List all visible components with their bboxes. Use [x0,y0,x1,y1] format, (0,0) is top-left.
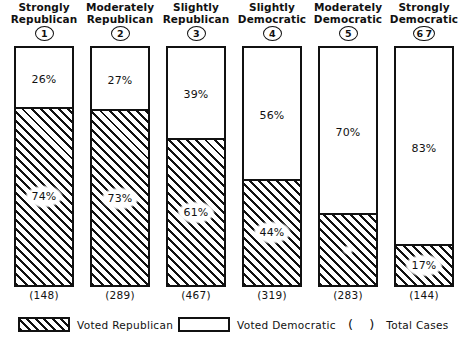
segment-democratic: 39% [168,48,224,142]
bar-column-2: 27% 73% [90,46,150,287]
legend-label-total-cases: Total Cases [386,319,448,331]
bar-column-6: 83% 17% [394,46,454,287]
legend-item-democratic: Voted Democratic [178,317,336,332]
segment-republican: 73% [92,109,148,285]
category-label: Strongly Republican [2,2,86,25]
legend-label-democratic: Voted Democratic [237,319,336,331]
segment-label-democratic: 27% [107,74,132,87]
segment-label-democratic: 70% [335,126,360,139]
segment-republican: 61% [168,138,224,285]
bar-column-3: 39% 61% [166,46,226,287]
legend-swatch-republican-icon [18,317,70,332]
bar-column-1: 26% 74% [14,46,74,287]
bar-total-cases: (467) [158,289,234,301]
category-label: Slightly Republican [154,2,238,25]
category-label: Strongly Democratic [382,2,466,25]
category-badge-number: 6 7 [413,26,434,41]
category-badge-number: 2 [111,26,130,41]
segment-republican: 74% [16,107,72,285]
legend-label-republican: Voted Republican [77,319,173,331]
legend-swatch-democratic-icon [178,317,230,332]
category-badge: 4 [234,26,310,41]
segment-republican [320,213,376,285]
segment-democratic: 83% [396,48,452,248]
category-badge-number: 1 [35,26,54,41]
legend-item-total-cases: ( ) Total Cases [348,317,449,332]
category-badge-number: 5 [339,26,358,41]
segment-democratic: 26% [16,48,72,111]
category-label: Moderately Democratic [306,2,390,25]
bar-total-cases: (144) [386,289,462,301]
segment-label-republican: 74% [28,188,59,205]
category-label: Moderately Republican [78,2,162,25]
segment-label-democratic: 56% [259,109,284,122]
segment-label-republican: 17% [408,257,439,274]
bar-total-cases: (319) [234,289,310,301]
legend-item-republican: Voted Republican [18,317,173,332]
bar-total-cases: (283) [310,289,386,301]
chart-legend: Voted Republican Voted Democratic ( ) To… [0,308,466,341]
segment-republican: 44% [244,179,300,285]
segment-label-republican [345,248,351,252]
segment-democratic: 70% [320,48,376,217]
bar-column-5: 70% [318,46,378,287]
category-badge: 5 [310,26,386,41]
segment-label-democratic: 83% [411,142,436,155]
segment-republican: 17% [396,244,452,285]
legend-parenthesis-icon: ( ) [348,317,380,332]
bar-column-4: 56% 44% [242,46,302,287]
bar-total-cases: (289) [82,289,158,301]
category-badge: 2 [82,26,158,41]
bar-total-cases: (148) [6,289,82,301]
category-badge-number: 3 [187,26,206,41]
stacked-bar-chart: Strongly Republican 1 26% 74% (148) Mode… [0,0,466,341]
category-badge: 6 7 [386,26,462,41]
segment-label-republican: 44% [256,224,287,241]
segment-label-republican: 73% [104,190,135,207]
segment-label-democratic: 26% [31,73,56,86]
segment-label-republican: 61% [180,204,211,221]
segment-label-democratic: 39% [183,88,208,101]
category-badge: 3 [158,26,234,41]
segment-democratic: 27% [92,48,148,113]
category-badge: 1 [6,26,82,41]
category-label: Slightly Democratic [230,2,314,25]
segment-democratic: 56% [244,48,300,183]
category-badge-number: 4 [263,26,282,41]
